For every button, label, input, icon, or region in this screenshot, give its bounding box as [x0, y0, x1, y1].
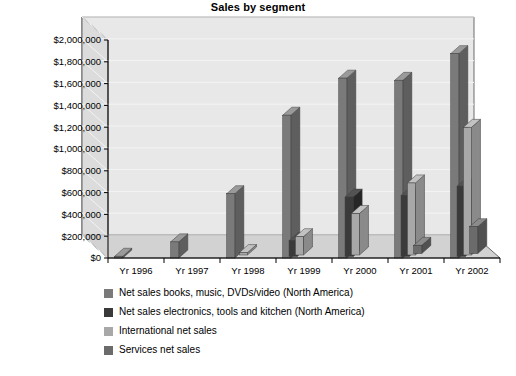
legend-item[interactable]: International net sales [104, 326, 217, 336]
y-tick-label: $400,000 [61, 209, 101, 220]
y-tick-label: $1,600,000 [53, 78, 101, 89]
y-tick-label: $1,000,000 [53, 143, 101, 154]
x-tick-label: Yr 2001 [399, 265, 432, 276]
bar-side-face [359, 205, 368, 255]
legend-item-label: Net sales books, music, DVDs/video (Nort… [119, 288, 353, 298]
x-tick-label: Yr 2002 [455, 265, 488, 276]
y-tick-label: $1,200,000 [53, 122, 101, 133]
y-tick-label: $600,000 [61, 187, 101, 198]
y-tick-label: $1,800,000 [53, 56, 101, 67]
x-tick-label: Yr 1996 [119, 265, 152, 276]
bar-front-face [295, 237, 303, 255]
legend-item[interactable]: Net sales books, music, DVDs/video (Nort… [104, 288, 353, 298]
bar-yr-2000-series-3 [351, 205, 368, 255]
bar-front-face [414, 245, 422, 253]
legend-swatch-icon [104, 308, 113, 317]
legend-item[interactable]: Net sales electronics, tools and kitchen… [104, 307, 365, 317]
x-tick-label: Yr 2000 [343, 265, 376, 276]
bar-front-face [227, 194, 235, 258]
x-tick-label: Yr 1999 [287, 265, 320, 276]
x-tick-label: Yr 1997 [175, 265, 208, 276]
legend-swatch-icon [104, 289, 113, 298]
bar-front-face [171, 242, 179, 258]
legend-swatch-icon [104, 346, 113, 355]
x-tick-label: Yr 1998 [231, 265, 264, 276]
bar-front-face [470, 227, 478, 254]
bar-side-face [235, 186, 244, 258]
chart-container: Sales by segment $0$200,000$400,000$600,… [0, 0, 516, 376]
legend-item-label: International net sales [119, 326, 217, 336]
bar-front-face [283, 115, 291, 258]
bar-front-face [351, 213, 359, 255]
legend-item-label: Services net sales [119, 345, 200, 355]
y-tick-label: $800,000 [61, 165, 101, 176]
y-tick-label: $2,000,000 [53, 34, 101, 45]
bar-yr-1998-series-1 [227, 186, 244, 258]
bar-front-face [239, 253, 247, 255]
y-tick-label: $0 [90, 252, 101, 263]
bar-front-face [407, 183, 415, 255]
legend-item-label: Net sales electronics, tools and kitchen… [119, 307, 365, 317]
sales-by-segment-chart: $0$200,000$400,000$600,000$800,000$1,000… [0, 0, 516, 376]
legend-swatch-icon [104, 327, 113, 336]
y-tick-label: $200,000 [61, 231, 101, 242]
y-tick-label: $1,400,000 [53, 100, 101, 111]
legend-item[interactable]: Services net sales [104, 345, 200, 355]
